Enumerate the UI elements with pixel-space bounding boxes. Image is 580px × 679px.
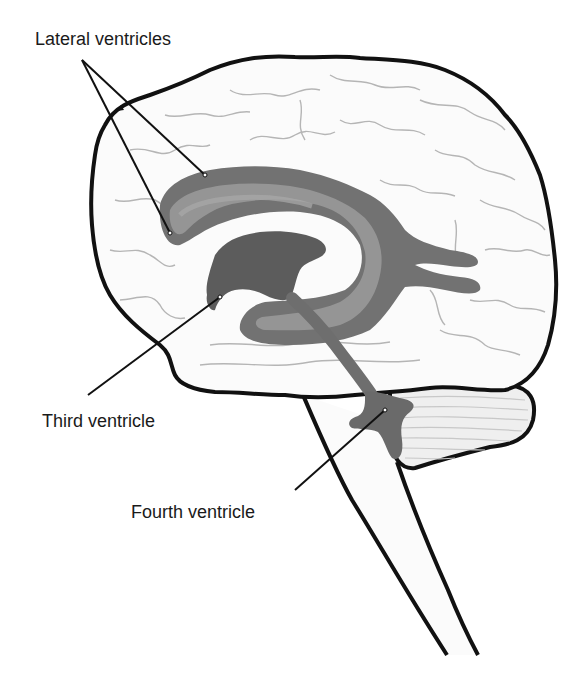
label-fourth-ventricle: Fourth ventricle [131,503,255,521]
label-third-ventricle: Third ventricle [42,412,155,430]
brain-illustration [0,0,580,679]
cerebrum [91,56,556,397]
brain-ventricles-diagram: Lateral ventricles Third ventricle Fourt… [0,0,580,679]
cerebellum [390,384,534,468]
label-lateral-ventricles: Lateral ventricles [35,30,171,48]
